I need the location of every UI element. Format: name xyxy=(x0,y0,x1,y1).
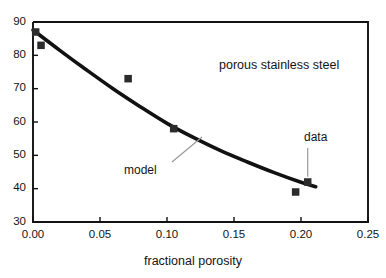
x-axis-title: fractional porosity xyxy=(0,255,386,268)
plot-canvas xyxy=(0,0,386,278)
y-tick-label-40: 40 xyxy=(2,182,26,194)
x-tick-label-0-20: 0.20 xyxy=(279,229,323,241)
x-tick-label-0-15: 0.15 xyxy=(212,229,256,241)
y-tick-label-50: 50 xyxy=(2,149,26,161)
annotation-leader-lines xyxy=(172,137,308,177)
annotation-data-label: data xyxy=(304,131,327,143)
x-tick-label-0-00: 0.00 xyxy=(11,229,55,241)
y-tick-label-90: 90 xyxy=(2,16,26,28)
x-tick-label-0-10: 0.10 xyxy=(145,229,189,241)
data-point-marker xyxy=(292,188,300,196)
data-point-marker xyxy=(37,42,45,50)
data-point-marker xyxy=(124,75,132,83)
leader-line xyxy=(172,137,202,162)
x-tick-label-0-25: 0.25 xyxy=(346,229,386,241)
y-tick-label-80: 80 xyxy=(2,49,26,61)
model-curve-group xyxy=(33,30,316,187)
data-point-marker xyxy=(304,178,312,186)
y-tick-label-70: 70 xyxy=(2,82,26,94)
x-tick-label-0-05: 0.05 xyxy=(78,229,122,241)
model-curve xyxy=(33,30,316,187)
annotation-sample-label: porous stainless steel xyxy=(219,59,339,72)
chart-figure: 90 80 70 60 50 40 30 0.00 0.05 0.10 0.15… xyxy=(0,0,386,278)
y-tick-label-60: 60 xyxy=(2,116,26,128)
y-tick-label-30: 30 xyxy=(2,216,26,228)
data-point-marker xyxy=(32,28,40,36)
data-point-marker xyxy=(170,125,178,133)
axis-frame xyxy=(33,22,368,222)
annotation-model-label: model xyxy=(124,164,157,176)
